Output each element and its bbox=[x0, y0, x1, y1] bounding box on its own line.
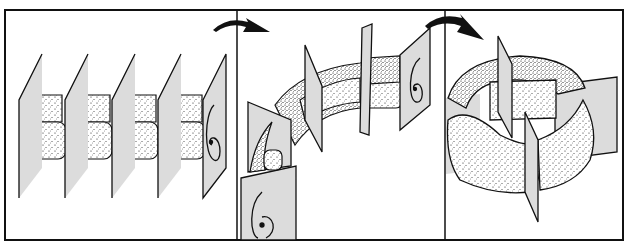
arrow-icon bbox=[213, 18, 270, 32]
curved-tube bbox=[275, 56, 403, 145]
panel-closed-torus bbox=[446, 36, 617, 222]
arrow-icon bbox=[425, 14, 484, 40]
panel-bending-tube bbox=[241, 24, 430, 240]
panel-straight-tube bbox=[19, 54, 226, 198]
figure bbox=[0, 0, 626, 247]
